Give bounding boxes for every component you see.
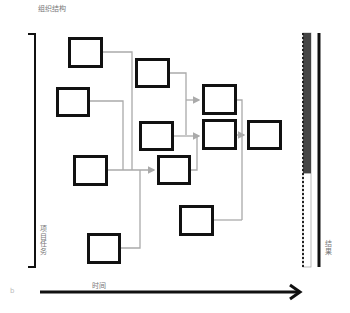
connector bbox=[237, 100, 242, 220]
time-axis-label: 时间 bbox=[92, 280, 106, 290]
task-box bbox=[135, 58, 170, 88]
progress-fill bbox=[303, 33, 311, 173]
right-axis-label: 结果 bbox=[323, 240, 333, 255]
task-box bbox=[68, 37, 103, 68]
task-box bbox=[157, 155, 191, 185]
connector bbox=[121, 170, 140, 248]
corner-label: b bbox=[10, 287, 14, 295]
task-box bbox=[73, 155, 108, 186]
task-box bbox=[247, 120, 282, 150]
left-axis-label: 项目任务 bbox=[38, 225, 48, 255]
connector bbox=[191, 136, 197, 170]
task-box bbox=[139, 121, 174, 151]
task-box bbox=[179, 205, 214, 236]
task-box bbox=[202, 84, 237, 115]
task-box bbox=[202, 119, 237, 150]
connector bbox=[103, 52, 132, 170]
left-bracket bbox=[28, 34, 35, 267]
task-box bbox=[87, 233, 121, 264]
task-box bbox=[56, 87, 90, 117]
